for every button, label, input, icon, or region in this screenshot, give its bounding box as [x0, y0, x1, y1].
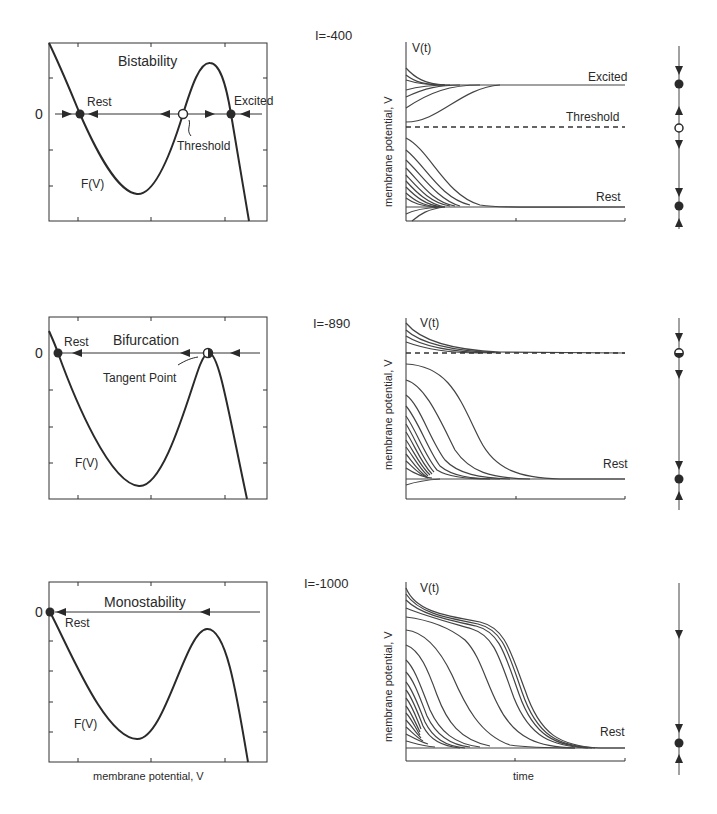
y-axis-label: membrane potential, V — [382, 631, 394, 742]
vt-panel-1000: I=-1000 V(t) membrane potential, V — [304, 576, 625, 782]
zero-tick-label: 0 — [35, 106, 43, 122]
threshold-equilibrium-marker — [179, 110, 188, 119]
vt-label: V(t) — [420, 316, 439, 330]
rest-trajectories — [406, 364, 625, 485]
tangent-pointer — [178, 357, 198, 365]
figure: Bistability 0 Rest Threshold Excited F(V… — [0, 0, 717, 814]
current-label: I=-890 — [313, 316, 350, 331]
arrow-down-icon — [675, 370, 683, 379]
zero-tick-label: 0 — [35, 345, 43, 361]
phase-line-1000 — [675, 583, 684, 775]
fv-panel-bistability: Bistability 0 Rest Threshold Excited F(V… — [35, 43, 273, 221]
rest-label: Rest — [65, 616, 90, 630]
x-axis-label: time — [513, 770, 534, 782]
arrow-up-icon — [675, 218, 683, 227]
fv-curve — [49, 43, 249, 221]
rest-label: Rest — [600, 725, 625, 739]
unstable-point-icon — [675, 124, 683, 132]
zero-tick-label: 0 — [35, 604, 43, 620]
curve-label: F(V) — [74, 717, 97, 731]
vt-label: V(t) — [420, 581, 439, 595]
trajectories — [406, 588, 625, 748]
phase-line-400 — [675, 46, 684, 229]
panel-title: Monostability — [104, 594, 186, 610]
curve-label: F(V) — [81, 177, 104, 191]
rest-equilibrium-marker — [76, 110, 85, 119]
stable-point-icon — [675, 202, 684, 211]
rest-label: Rest — [596, 190, 621, 204]
arrow-down-icon — [675, 188, 683, 197]
excited-label: Excited — [588, 70, 627, 84]
stable-point-icon — [675, 80, 684, 89]
fv-panel-monostability: Monostability 0 Rest F(V) membrane poten… — [35, 582, 267, 782]
rest-label: Rest — [603, 457, 628, 471]
arrow-down-icon — [675, 461, 683, 470]
x-axis-label: membrane potential, V — [93, 770, 204, 782]
threshold-pointer — [189, 120, 191, 136]
arrow-up-icon — [675, 754, 683, 763]
threshold-label: Threshold — [177, 139, 230, 153]
arrow-up-icon — [675, 106, 683, 115]
rest-equilibrium-marker — [54, 349, 63, 358]
arrow-down-icon — [675, 333, 683, 342]
vt-panel-890: I=-890 V(t) membrane potential, V — [313, 316, 628, 499]
tangent-point-label: Tangent Point — [103, 371, 177, 385]
excited-label: Excited — [234, 94, 273, 108]
current-label: I=-1000 — [304, 576, 348, 591]
excited-equilibrium-marker — [227, 110, 236, 119]
panel-title: Bifurcation — [113, 332, 179, 348]
rest-equilibrium-marker — [46, 608, 55, 617]
threshold-label: Threshold — [566, 110, 619, 124]
arrow-down-icon — [675, 140, 683, 149]
phase-line-890 — [675, 318, 684, 510]
current-label: I=-400 — [315, 28, 352, 43]
fv-panel-bifurcation: Bifurcation 0 Rest Tangent Point F(V) — [35, 317, 267, 499]
arrow-down-icon — [675, 630, 683, 639]
fv-curve — [50, 612, 248, 762]
stable-point-icon — [675, 739, 684, 748]
vt-label: V(t) — [412, 41, 431, 55]
arrow-down-icon — [675, 66, 683, 75]
vt-panel-400: I=-400 V(t) membrane potential, V — [315, 28, 627, 221]
rest-label: Rest — [87, 95, 112, 109]
rest-label: Rest — [64, 335, 89, 349]
fv-curve — [49, 331, 247, 499]
stable-point-icon — [675, 475, 684, 484]
arrow-up-icon — [675, 491, 683, 500]
curve-label: F(V) — [75, 456, 98, 470]
panel-title: Bistability — [118, 53, 177, 69]
rest-trajectories — [406, 138, 625, 221]
y-axis-label: membrane potential, V — [382, 359, 394, 470]
y-axis-label: membrane potential, V — [382, 96, 394, 207]
arrow-down-icon — [675, 724, 683, 733]
